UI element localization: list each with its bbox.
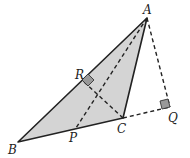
label-r: R	[74, 68, 84, 82]
label-p: P	[68, 131, 78, 145]
segment-aq	[147, 18, 170, 107]
label-q: Q	[168, 111, 178, 125]
diagram-canvas: A B C P Q R	[0, 0, 190, 158]
label-c: C	[117, 122, 126, 136]
label-b: B	[7, 143, 17, 157]
triangle-diagram: A B C P Q R	[0, 0, 190, 158]
right-angle-marker-q	[160, 99, 170, 109]
label-a: A	[142, 3, 152, 17]
